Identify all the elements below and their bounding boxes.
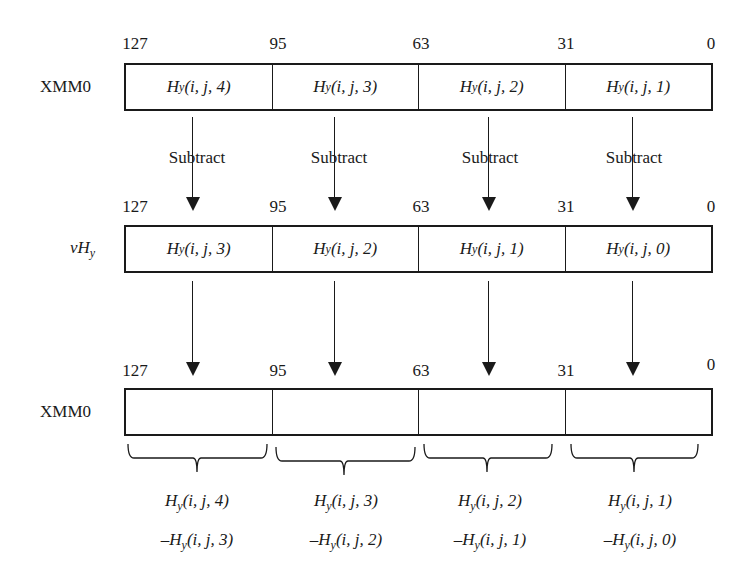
brace-icon [424,444,552,472]
result-expression: Hy(i, j, 2) –Hy(i, j, 1) [454,484,526,562]
brace-icon [128,444,267,472]
brace-icon [571,444,698,472]
result-expression: Hy(i, j, 3) –Hy(i, j, 2) [310,484,382,562]
brace-icon [276,447,415,475]
result-expression: Hy(i, j, 4) –Hy(i, j, 3) [161,484,233,562]
result-expression: Hy(i, j, 1) –Hy(i, j, 0) [604,484,676,562]
